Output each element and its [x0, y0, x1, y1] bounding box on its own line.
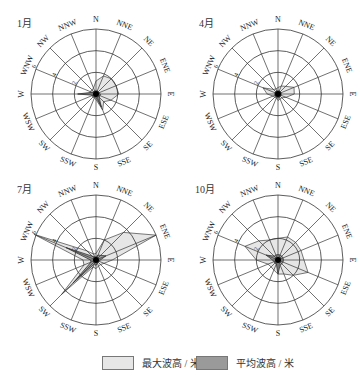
direction-label: NNW [239, 183, 261, 199]
month-label: 10月 [195, 181, 215, 196]
direction-label: W [199, 90, 208, 98]
max-swatch [102, 356, 134, 370]
direction-label: E [166, 92, 175, 97]
center-dot [275, 257, 281, 263]
grid-spoke [50, 48, 96, 94]
grid-spoke [96, 48, 142, 94]
direction-label: SSW [59, 320, 78, 335]
direction-label: SE [141, 305, 154, 318]
month-label: 7月 [17, 181, 32, 196]
direction-label: NNE [115, 184, 134, 199]
direction-label: WSW [20, 277, 36, 299]
direction-label: SE [323, 139, 336, 152]
center-dot [93, 257, 99, 263]
direction-label: ENE [158, 57, 172, 75]
direction-label: NNE [297, 18, 316, 33]
direction-label: SW [219, 138, 234, 153]
grid-spoke [50, 94, 96, 140]
grid-spoke [278, 94, 324, 140]
direction-label: NW [35, 199, 51, 215]
grid-spoke [232, 94, 278, 140]
legend: 最大波高 / 米 平均波高 / 米 [0, 355, 364, 375]
direction-label: NW [35, 33, 51, 49]
direction-label: ESE [339, 114, 353, 131]
direction-label: SSW [241, 320, 260, 335]
month-label: 4月 [199, 15, 214, 30]
grid-spoke [232, 48, 278, 94]
direction-label: W [199, 256, 208, 264]
direction-label: SE [323, 305, 336, 318]
direction-label: NW [217, 33, 233, 49]
direction-label: ESE [157, 280, 171, 297]
legend-max-label: 最大波高 / 米 [142, 355, 200, 370]
wave-rose-jul: 7月 NNNENEENEEESESESSESSSWSWWSWWWNWNWNNW2… [0, 166, 182, 346]
direction-label: NNW [57, 183, 79, 199]
grid-spoke [96, 94, 142, 140]
legend-item-mean: 平均波高 / 米 [196, 355, 294, 370]
ring-tick-label: 4 [51, 72, 58, 77]
ring-tick-label: 4 [233, 238, 240, 243]
grid-spoke [232, 260, 278, 306]
direction-label: ENE [158, 223, 172, 241]
ring-tick-label: 2 [71, 80, 78, 85]
direction-label: SW [219, 304, 234, 319]
direction-label: N [93, 181, 99, 190]
direction-label: WSW [202, 111, 218, 133]
direction-label: NE [324, 34, 338, 48]
grid-spoke [50, 260, 96, 306]
direction-label: NE [142, 200, 156, 214]
grid-spoke [96, 260, 142, 306]
direction-label: NE [142, 34, 156, 48]
direction-label: E [166, 258, 175, 263]
direction-label: ESE [339, 280, 353, 297]
legend-item-max: 最大波高 / 米 [102, 355, 200, 370]
direction-label: S [94, 329, 98, 338]
direction-label: NE [324, 200, 338, 214]
center-dot [275, 91, 281, 97]
grid-spoke [278, 48, 324, 94]
direction-label: SE [141, 139, 154, 152]
direction-label: S [276, 329, 280, 338]
direction-label: ENE [340, 223, 354, 241]
direction-label: W [17, 256, 26, 264]
wave-rose-apr: 4月 NNNENEENEEESESESSESSSWSWWSWWWNWNWNNW2… [182, 0, 364, 180]
direction-label: SSE [116, 321, 132, 335]
wave-rose-jan: 1月 NNNENEENEEESESESSESSSWSWWSWWWNWNWNNW2… [0, 0, 182, 180]
direction-label: ENE [340, 57, 354, 75]
ring-tick-label: 2 [253, 80, 260, 85]
mean-swatch [196, 356, 228, 370]
direction-label: ESE [157, 114, 171, 131]
ring-tick-label: 6 [213, 230, 220, 235]
direction-label: NW [217, 199, 233, 215]
direction-label: N [275, 181, 281, 190]
direction-label: NNE [115, 18, 134, 33]
direction-label: SW [37, 138, 52, 153]
direction-label: E [348, 258, 357, 263]
legend-mean-label: 平均波高 / 米 [236, 355, 294, 370]
ring-tick-label: 6 [31, 64, 38, 69]
direction-label: E [348, 92, 357, 97]
direction-label: NNE [297, 184, 316, 199]
direction-label: WSW [202, 277, 218, 299]
direction-label: WSW [20, 111, 36, 133]
direction-label: N [93, 15, 99, 24]
direction-label: W [17, 90, 26, 98]
month-label: 1月 [17, 15, 32, 30]
direction-label: SW [37, 304, 52, 319]
direction-label: NNW [57, 17, 79, 33]
ring-tick-label: 6 [213, 64, 220, 69]
center-dot [93, 91, 99, 97]
wave-rose-oct: 10月 NNNENEENEEESESESSESSSWSWWSWWWNWNWNNW… [182, 166, 364, 346]
direction-label: SSE [298, 321, 314, 335]
direction-label: NNW [239, 17, 261, 33]
direction-label: N [275, 15, 281, 24]
ring-tick-label: 6 [31, 230, 38, 235]
ring-tick-label: 4 [233, 72, 240, 77]
